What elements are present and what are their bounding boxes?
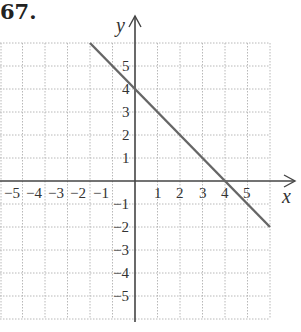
- coordinate-plane: x y −5 −4 −3 −2 −1 1 2 3 4 5 5 4 3 2 1 −…: [0, 0, 301, 332]
- y-tick: −1: [113, 196, 129, 212]
- y-tick: 4: [122, 81, 130, 97]
- x-tick: −1: [93, 185, 109, 201]
- y-tick: −4: [113, 265, 129, 281]
- x-axis-label: x: [281, 185, 291, 207]
- x-tick: −4: [26, 185, 42, 201]
- x-tick: 2: [176, 185, 184, 201]
- y-axis-label: y: [114, 14, 125, 37]
- x-tick: −3: [48, 185, 64, 201]
- y-axis: [129, 16, 141, 322]
- x-tick: 3: [199, 185, 207, 201]
- x-tick: −2: [70, 185, 86, 201]
- x-tick: 4: [221, 185, 229, 201]
- y-tick: −3: [113, 242, 129, 258]
- x-axis: [0, 175, 295, 187]
- y-tick: 1: [122, 150, 130, 166]
- x-tick: 5: [243, 185, 251, 201]
- y-tick: 2: [122, 127, 130, 143]
- y-tick: −5: [113, 288, 129, 304]
- y-tick: 5: [122, 58, 130, 74]
- x-tick: −5: [4, 185, 20, 201]
- y-tick: −2: [113, 219, 129, 235]
- x-tick: 1: [154, 185, 162, 201]
- y-tick: 3: [122, 104, 130, 120]
